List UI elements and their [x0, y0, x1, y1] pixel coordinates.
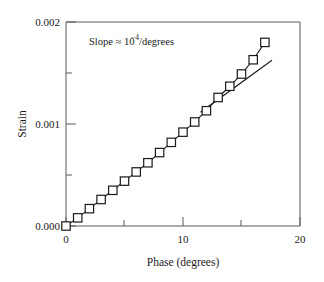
data-point-marker [202, 107, 210, 115]
data-point-marker [214, 93, 222, 101]
chart-figure: 0.002 0.001 0.000 0 10 20 Phase (degrees… [0, 0, 324, 282]
data-point-marker [155, 148, 163, 156]
data-point-marker [167, 138, 175, 146]
x-axis-title: Phase (degrees) [147, 256, 220, 269]
data-point-marker [261, 38, 269, 46]
x-axis-tick-labels: 0 10 20 [63, 233, 306, 245]
slope-annotation: Slope ≈ 10 −4 /degrees [89, 33, 174, 47]
data-point-marker [74, 214, 82, 222]
data-point-marker [120, 177, 128, 185]
data-point-marker [97, 195, 105, 203]
strain-vs-phase-chart: 0.002 0.001 0.000 0 10 20 Phase (degrees… [0, 0, 324, 282]
y-tick-label-top: 0.002 [35, 16, 60, 28]
data-point-marker [237, 70, 245, 78]
x-axis-ticks [66, 217, 300, 226]
data-point-marker [109, 186, 117, 194]
slope-annotation-prefix: Slope ≈ 10 [89, 36, 134, 47]
x-tick-label-0: 0 [63, 233, 69, 245]
data-point-marker [62, 222, 70, 230]
data-markers [62, 38, 269, 230]
y-tick-label-bottom: 0.000 [35, 220, 60, 232]
data-point-marker [144, 159, 152, 167]
y-axis-title: Strain [16, 110, 28, 138]
data-point-marker [179, 128, 187, 136]
data-point-marker [249, 56, 257, 64]
y-axis-tick-labels: 0.002 0.001 0.000 [35, 16, 60, 232]
data-point-marker [132, 168, 140, 176]
y-axis-ticks [66, 22, 76, 226]
data-point-marker [191, 118, 199, 126]
y-tick-label-middle: 0.001 [35, 118, 60, 130]
data-point-marker [226, 82, 234, 90]
x-tick-label-10: 10 [178, 233, 190, 245]
slope-annotation-exponent: −4 [131, 33, 139, 42]
data-point-marker [85, 204, 93, 212]
data-series-line [66, 42, 265, 226]
x-tick-label-20: 20 [295, 233, 307, 245]
slope-annotation-suffix: /degrees [139, 36, 174, 47]
